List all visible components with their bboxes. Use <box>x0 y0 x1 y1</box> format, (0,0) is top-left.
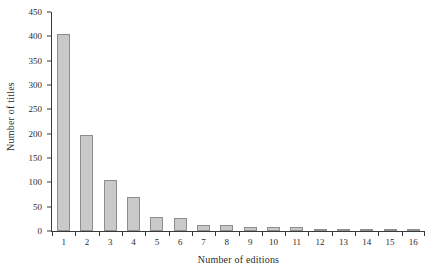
x-axis-tick-mark <box>215 232 216 236</box>
x-axis-tick-mark <box>262 232 263 236</box>
x-axis-tick-label: 6 <box>178 237 183 247</box>
y-axis-title: Number of titles <box>0 0 20 232</box>
bar-slot <box>285 12 308 231</box>
x-axis-tick-label: 1 <box>61 237 66 247</box>
x-axis-tick-mark <box>169 232 170 236</box>
x-axis-tick-mark <box>75 232 76 236</box>
x-axis-tick-mark <box>308 232 309 236</box>
y-axis-tick-labels: 050100150200250300350400450 <box>20 0 46 232</box>
bar-slot <box>402 12 425 231</box>
x-axis-tick-mark <box>332 232 333 236</box>
x-axis-tick-mark <box>378 232 379 236</box>
y-axis-title-label: Number of titles <box>5 82 16 151</box>
x-axis-tick-label: 13 <box>339 237 348 247</box>
y-axis-tick-label: 150 <box>29 153 43 163</box>
x-axis-title: Number of editions <box>52 254 425 265</box>
x-axis-tick-label: 10 <box>269 237 278 247</box>
bar-slot <box>215 12 238 231</box>
bar <box>384 229 397 231</box>
x-axis-tick-labels: 12345678910111213141516 <box>52 237 425 251</box>
bar <box>174 218 187 231</box>
bar-slot <box>239 12 262 231</box>
x-axis-tick-label: 11 <box>292 237 301 247</box>
x-axis-tick-label: 12 <box>316 237 325 247</box>
x-axis-tick-label: 5 <box>155 237 160 247</box>
bar <box>197 225 210 231</box>
bar-slot <box>52 12 75 231</box>
x-axis-tick-mark <box>285 232 286 236</box>
y-axis-tick-label: 100 <box>29 177 43 187</box>
x-axis-tick-mark <box>145 232 146 236</box>
bar-slot <box>355 12 378 231</box>
x-axis-tick-label: 4 <box>131 237 136 247</box>
bar-slot <box>308 12 331 231</box>
bar <box>314 229 327 231</box>
x-axis-tick-label: 9 <box>248 237 253 247</box>
bar <box>360 229 373 231</box>
x-axis-tick-mark <box>122 232 123 236</box>
x-axis-tick-mark <box>355 232 356 236</box>
x-axis-tick-mark <box>52 232 53 236</box>
bar <box>127 197 140 231</box>
y-axis-tick-label: 400 <box>29 31 43 41</box>
bar-slot <box>169 12 192 231</box>
bar <box>57 34 70 231</box>
x-axis-tick-mark <box>239 232 240 236</box>
bar-chart: Number of titles 05010015020025030035040… <box>0 0 436 275</box>
x-axis-tick-label: 16 <box>409 237 418 247</box>
bar <box>267 227 280 231</box>
bar <box>104 180 117 231</box>
y-axis-tick-label: 0 <box>38 226 43 236</box>
x-axis-tick-label: 7 <box>201 237 206 247</box>
bar <box>407 229 420 231</box>
plot-area <box>52 12 425 231</box>
bar-slot <box>122 12 145 231</box>
bar-slot <box>378 12 401 231</box>
x-axis-tick-mark <box>192 232 193 236</box>
y-axis-tick-label: 300 <box>29 80 43 90</box>
x-axis-tick-label: 14 <box>362 237 371 247</box>
bar-slot <box>75 12 98 231</box>
x-axis-tick-label: 8 <box>225 237 230 247</box>
bar-slot <box>262 12 285 231</box>
y-axis-tick-label: 250 <box>29 104 43 114</box>
x-axis-tick-label: 3 <box>108 237 113 247</box>
y-axis-tick-label: 50 <box>33 202 42 212</box>
bar-slot <box>332 12 355 231</box>
x-axis-tick-label: 2 <box>85 237 90 247</box>
bar-slot <box>145 12 168 231</box>
y-axis-tick-label: 200 <box>29 129 43 139</box>
x-axis-title-label: Number of editions <box>198 254 279 265</box>
x-axis-tick-mark <box>402 232 403 236</box>
bar <box>220 225 233 231</box>
bar <box>337 229 350 231</box>
y-axis-tick-label: 350 <box>29 56 43 66</box>
bar <box>244 227 257 231</box>
bar <box>150 217 163 231</box>
bar <box>290 227 303 231</box>
bar-slot <box>192 12 215 231</box>
bar <box>80 135 93 231</box>
y-axis-tick-label: 450 <box>29 7 43 17</box>
x-axis-tick-label: 15 <box>386 237 395 247</box>
x-axis-tick-mark <box>99 232 100 236</box>
bar-slot <box>99 12 122 231</box>
x-axis-tick-mark <box>424 232 425 236</box>
